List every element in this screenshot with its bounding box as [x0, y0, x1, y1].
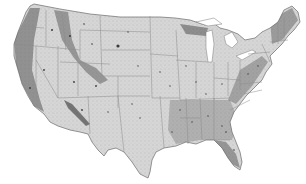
southeast-dense-region	[168, 100, 238, 144]
us-map	[0, 0, 306, 184]
us-map-svg	[0, 0, 306, 184]
